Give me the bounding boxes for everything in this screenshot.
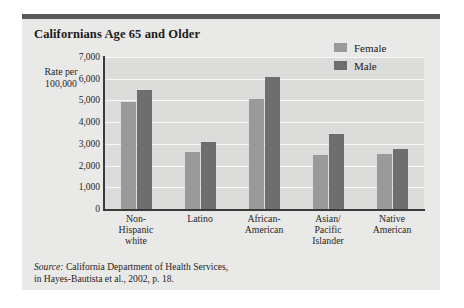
- plot-area: [104, 57, 424, 209]
- legend-item-female: Female: [334, 40, 386, 55]
- y-axis-tick-label: 2,000: [54, 161, 100, 171]
- chart-card: Californians Age 65 and Older Rate per 1…: [22, 14, 440, 290]
- legend-swatch-female: [334, 43, 347, 52]
- bar-female: [313, 155, 328, 209]
- source-line-2: in Hayes-Bautista et al., 2002, p. 18.: [34, 273, 228, 285]
- legend-label: Male: [354, 60, 377, 72]
- bar-group: [121, 57, 152, 209]
- y-axis-tick-label: 1,000: [54, 182, 100, 192]
- bar-group: [377, 57, 408, 209]
- page-title: Californians Age 65 and Older: [34, 27, 200, 42]
- legend-item-male: Male: [334, 58, 386, 73]
- legend-swatch-male: [334, 61, 347, 70]
- bar-male: [329, 134, 344, 209]
- card-top-rule: [22, 14, 440, 19]
- bar-female: [249, 99, 264, 209]
- category-label-line: Native: [354, 213, 430, 224]
- category-label-line: American: [354, 224, 430, 235]
- bar-female: [185, 152, 200, 209]
- bar-group: [185, 57, 216, 209]
- chart-legend: FemaleMale: [334, 40, 386, 76]
- y-axis-tick-label: 5,000: [54, 95, 100, 105]
- bar-male: [201, 142, 216, 209]
- bar-female: [377, 154, 392, 209]
- y-axis-tick-labels: 7,0006,0005,0004,0003,0002,0001,0000: [50, 57, 100, 209]
- y-axis-tick-label: 4,000: [54, 117, 100, 127]
- bar-female: [121, 102, 136, 209]
- x-axis-category-labels: Non-HispanicwhiteLatinoAfrican-AmericanA…: [104, 213, 424, 259]
- bar-group: [249, 57, 280, 209]
- source-note: Source: California Department of Health …: [34, 261, 228, 284]
- bar-male: [265, 77, 280, 209]
- y-axis-tick-label: 6,000: [54, 74, 100, 84]
- y-axis-tick-label: 0: [54, 204, 100, 214]
- y-axis-tick-label: 3,000: [54, 139, 100, 149]
- category-label-line: white: [98, 235, 174, 246]
- bar-male: [137, 90, 152, 209]
- source-line-1: Source: California Department of Health …: [34, 261, 228, 273]
- x-axis-category-label: NativeAmerican: [354, 213, 430, 235]
- y-axis-tick-label: 7,000: [54, 52, 100, 62]
- category-label-line: Hispanic: [98, 224, 174, 235]
- source-text-1: California Department of Health Services…: [63, 261, 228, 272]
- x-axis-line: [103, 209, 425, 211]
- category-label-line: Islander: [290, 235, 366, 246]
- y-axis-line: [103, 56, 105, 210]
- bar-male: [393, 149, 408, 209]
- source-label: Source:: [34, 261, 63, 272]
- legend-label: Female: [354, 42, 386, 54]
- bar-group: [313, 57, 344, 209]
